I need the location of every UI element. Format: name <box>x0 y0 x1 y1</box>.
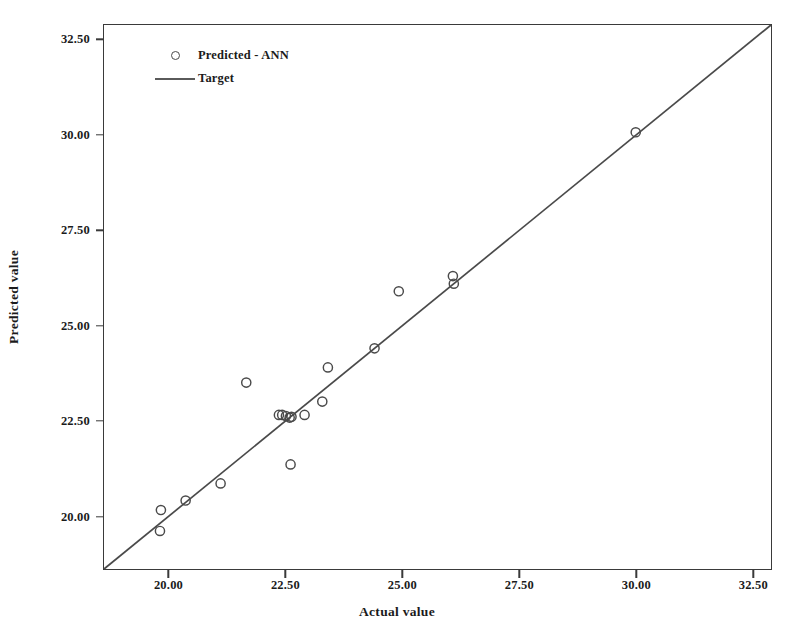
data-point <box>155 526 164 535</box>
x-tick-label: 20.00 <box>128 578 208 593</box>
plot-canvas <box>104 25 771 569</box>
data-point <box>394 287 403 296</box>
legend-item-target[interactable]: Target <box>152 67 342 90</box>
data-point <box>300 410 309 419</box>
x-tick-mark <box>285 570 286 578</box>
data-point <box>156 505 165 514</box>
legend-label-predicted-ann: Predicted - ANN <box>198 48 289 63</box>
y-tick-label: 27.50 <box>20 223 90 238</box>
data-point <box>286 460 295 469</box>
x-tick-mark <box>402 570 403 578</box>
plot-area <box>103 24 772 570</box>
data-point <box>242 378 251 387</box>
y-tick-label: 20.00 <box>20 509 90 524</box>
y-tick-mark <box>96 134 103 135</box>
y-tick-label: 25.00 <box>20 318 90 333</box>
y-tick-mark <box>96 420 103 421</box>
y-tick-mark <box>96 325 103 326</box>
scatter-chart: Predicted value 20.0022.5025.0027.5030.0… <box>0 0 794 641</box>
y-tick-mark <box>96 229 103 230</box>
circle-marker-icon <box>152 51 198 60</box>
legend: Predicted - ANN Target <box>152 44 342 90</box>
x-tick-mark <box>753 570 754 578</box>
x-tick-label: 32.50 <box>713 578 793 593</box>
y-tick-label: 32.50 <box>20 32 90 47</box>
x-tick-label: 30.00 <box>596 578 676 593</box>
x-tick-mark <box>519 570 520 578</box>
x-axis-title: Actual value <box>0 604 794 620</box>
legend-label-target: Target <box>198 71 234 86</box>
x-tick-mark <box>636 570 637 578</box>
y-tick-label: 30.00 <box>20 127 90 142</box>
x-tick-mark <box>168 570 169 578</box>
y-tick-label: 22.50 <box>20 414 90 429</box>
data-point <box>216 479 225 488</box>
data-point <box>318 397 327 406</box>
x-tick-label: 22.50 <box>245 578 325 593</box>
line-marker-icon <box>152 78 198 80</box>
y-tick-mark <box>96 39 103 40</box>
x-tick-label: 27.50 <box>479 578 559 593</box>
data-point <box>323 363 332 372</box>
legend-item-predicted-ann[interactable]: Predicted - ANN <box>152 44 342 67</box>
y-tick-mark <box>96 516 103 517</box>
target-identity-line <box>104 25 771 569</box>
x-tick-label: 25.00 <box>362 578 442 593</box>
